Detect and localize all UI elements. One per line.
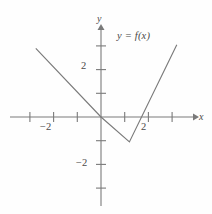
coordinate-plane	[0, 0, 212, 214]
function-curve-y-equals-f-of-x	[36, 45, 177, 142]
y-axis-label: y	[97, 14, 101, 24]
x-tick-label-neg2: −2	[40, 122, 51, 133]
x-axis-label: x	[199, 112, 203, 122]
function-graph-figure: x y −2 2 2 −2 y = f(x)	[0, 0, 212, 214]
function-annotation: y = f(x)	[117, 31, 150, 42]
y-tick-label-neg2: −2	[76, 158, 87, 169]
x-tick-label-pos2: 2	[141, 122, 146, 133]
y-axis-arrowhead	[98, 24, 105, 30]
y-tick-label-pos2: 2	[81, 61, 86, 72]
